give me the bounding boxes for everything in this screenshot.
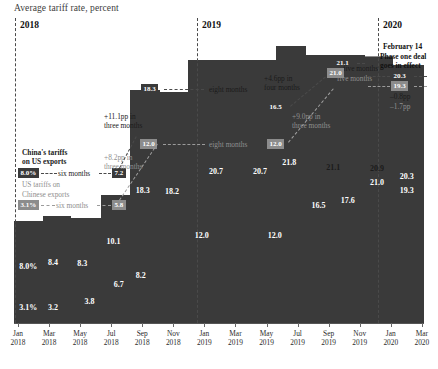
annotation-eight-months-1: eight months <box>209 85 247 95</box>
us-value-label-4: 8.2 <box>136 271 146 280</box>
annotation-chip-18-3: 18.3 <box>141 84 158 94</box>
china-value-label-7: 20.7 <box>253 167 267 176</box>
legend-us-span: six months <box>56 201 88 211</box>
us-value-label-2: 3.8 <box>85 297 95 306</box>
us-value-label-9: 21.0 <box>370 178 384 187</box>
legend-china-span: six months <box>58 169 90 179</box>
tick-month: Mar <box>43 329 55 338</box>
leader-18-3 <box>164 89 204 90</box>
leader-drop-us-left <box>368 86 390 87</box>
annotation-drop-china: –0.8pp <box>390 92 410 102</box>
tick-month: Nov <box>167 329 180 338</box>
tick-month: Mar <box>416 329 428 338</box>
tick-month: Jan <box>13 329 23 338</box>
us-value-label-8: 17.6 <box>341 196 355 205</box>
leader-drop-cn-left <box>368 76 390 77</box>
us-value-label-7: 16.5 <box>311 201 325 210</box>
legend-china-value: 8.0% <box>18 168 39 178</box>
x-tick-0 <box>18 323 19 327</box>
x-tick-2 <box>80 323 81 327</box>
tick-year: 2019 <box>352 338 367 347</box>
bar-china-5 <box>160 92 189 323</box>
tick-year: 2019 <box>228 338 243 347</box>
x-tick-10 <box>329 323 330 327</box>
china-value-label-6: 20.7 <box>209 167 223 176</box>
tick-year: 2018 <box>11 338 26 347</box>
tick-year: 2018 <box>104 338 119 347</box>
tick-year: 2019 <box>197 338 212 347</box>
x-tick-5 <box>173 323 174 327</box>
x-tick-11 <box>360 323 361 327</box>
china-value-label-9: 21.1 <box>326 163 340 172</box>
tick-month: Jan <box>199 329 209 338</box>
year-divider-2019 <box>197 18 198 323</box>
year-divider-2018 <box>15 18 16 323</box>
annotation-chip-20-3: 20.3 <box>391 71 408 81</box>
annotation-8-2pp-line2: three months <box>104 162 142 172</box>
year-label-2019: 2019 <box>202 20 221 30</box>
chart-title: Average tariff rate, percent <box>14 3 119 13</box>
tick-month: Sep <box>137 329 148 338</box>
tick-year: 2018 <box>42 338 57 347</box>
legend-china-leader2 <box>99 173 111 174</box>
x-tick-8 <box>267 323 268 327</box>
china-value-label-11: 20.3 <box>400 172 414 181</box>
x-tick-13 <box>422 323 423 327</box>
year-label-2020: 2020 <box>383 20 402 30</box>
annotation-11-1pp-line2: three months <box>104 121 142 131</box>
annotation-chip-16-5: 16.5 <box>267 102 284 112</box>
tick-year: 2018 <box>166 338 181 347</box>
tick-month: Nov <box>353 329 366 338</box>
x-tick-1 <box>49 323 50 327</box>
bar-china-7 <box>248 60 277 323</box>
tick-month: May <box>260 329 274 338</box>
annotation-4-6pp-line2: four months <box>264 83 300 93</box>
china-value-label-3: 10.1 <box>106 237 120 246</box>
us-value-label-3: 6.7 <box>114 280 124 289</box>
x-tick-label-13: Mar2020 <box>402 329 438 347</box>
tick-month: Mar <box>229 329 241 338</box>
tick-month: Jul <box>107 329 116 338</box>
legend-us-leader <box>41 205 55 206</box>
x-tick-6 <box>204 323 205 327</box>
tick-year: 2020 <box>383 338 398 347</box>
us-value-label-10: 19.3 <box>400 186 414 195</box>
tick-year: 2019 <box>321 338 336 347</box>
annotation-chip-12-0-b: 12.0 <box>267 139 284 149</box>
china-value-label-4: 18.3 <box>136 186 150 195</box>
tick-month: Sep <box>323 329 334 338</box>
bar-china-2 <box>71 218 101 323</box>
chart-root: Average tariff rate, percent 2018 2019 2… <box>0 0 438 369</box>
x-tick-7 <box>235 323 236 327</box>
legend-us-line2: Chinese exports <box>22 190 69 200</box>
china-value-label-5: 18.2 <box>165 187 179 196</box>
x-axis-line <box>14 323 424 324</box>
tick-year: 2018 <box>135 338 150 347</box>
x-tick-9 <box>298 323 299 327</box>
us-value-label-6: 12.0 <box>268 231 282 240</box>
annotation-eight-months-2: eight months <box>209 140 247 150</box>
us-value-label-5: 12.0 <box>195 231 209 240</box>
tick-month: Jan <box>386 329 396 338</box>
year-label-2018: 2018 <box>20 20 39 30</box>
china-value-label-0: 8.0% <box>19 262 37 271</box>
leader-drop-us-right <box>414 86 427 87</box>
event-date: February 14 <box>383 42 422 52</box>
legend-china-line2: on US exports <box>22 157 66 167</box>
legend-us-line1: US tariffs on <box>22 180 60 190</box>
china-value-label-8: 21.8 <box>282 158 296 167</box>
annotation-chip-19-3: 19.3 <box>391 81 408 91</box>
annotation-chip-5-8: 5.8 <box>112 200 126 210</box>
event-line2: goes in effect <box>380 61 421 71</box>
tick-year: 2020 <box>414 338 429 347</box>
tick-year: 2018 <box>73 338 88 347</box>
tick-year: 2019 <box>259 338 274 347</box>
us-value-label-0: 3.1% <box>19 303 37 312</box>
x-tick-12 <box>391 323 392 327</box>
us-value-label-1: 3.2 <box>48 303 58 312</box>
bar-china-9 <box>306 55 365 323</box>
china-value-label-1: 8.4 <box>48 258 58 267</box>
legend-us-leader2 <box>97 205 111 206</box>
annotation-five-months-1: five months <box>343 64 378 74</box>
tick-month: Jul <box>293 329 302 338</box>
